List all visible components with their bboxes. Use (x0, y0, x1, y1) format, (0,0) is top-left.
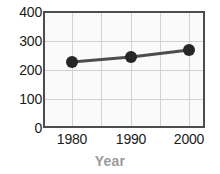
y-axis-tick-label-400: 400 (2, 5, 42, 19)
y-axis-tick-label-200: 200 (2, 63, 42, 77)
y-axis-tick-label-0: 0 (2, 121, 42, 135)
y-axis-tick-label-100: 100 (2, 92, 42, 106)
x-axis-tick-label-1990: 1990 (101, 131, 161, 147)
x-axis-tick-label-1980: 1980 (42, 131, 102, 147)
data-point-2000 (183, 44, 195, 56)
data-point-1990 (125, 51, 137, 63)
x-axis-title: Year (0, 153, 220, 169)
x-axis-tick-label-2000: 2000 (159, 131, 219, 147)
data-point-1980 (66, 56, 78, 68)
y-axis-tick-label-300: 300 (2, 34, 42, 48)
plot-area (43, 11, 205, 128)
line-chart: 400 300 200 100 0 1980 1990 2000 Year (0, 0, 220, 174)
data-series-line (45, 13, 203, 126)
